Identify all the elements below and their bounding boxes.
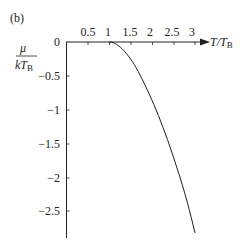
x-tick-label: 2.5: [165, 25, 180, 39]
x-tick-label: 0.5: [81, 25, 96, 39]
mu-curve: [110, 42, 196, 233]
x-axis-arrow-icon: [200, 39, 210, 46]
x-tick-labels: 0.5 1 1.5 2 2.5 3: [81, 25, 196, 39]
y-tick-label: −1.5: [38, 137, 60, 151]
x-tick-label: 3: [189, 25, 195, 39]
panel-label: (b): [10, 11, 24, 25]
y-tick-label: −2.5: [38, 204, 60, 218]
y-axis-label-numerator: μ: [19, 41, 26, 55]
x-tick-label: 2: [147, 25, 153, 39]
y-tick-label: −0.5: [38, 69, 60, 83]
x-tick-label: 1: [105, 25, 111, 39]
y-tick-label: 0: [54, 35, 60, 49]
y-tick-label: −2: [47, 171, 60, 185]
x-axis-label: T/TB: [210, 35, 233, 50]
y-tick-labels: 0 −0.5 −1 −1.5 −2 −2.5: [38, 35, 60, 218]
y-tick-label: −1: [47, 103, 60, 117]
chart: (b) μ kTB T/TB 0.5 1 1.5 2 2.5 3 0 −0.5 …: [0, 0, 242, 246]
y-axis-label-denominator: kTB: [15, 58, 33, 73]
x-tick-label: 1.5: [123, 25, 138, 39]
